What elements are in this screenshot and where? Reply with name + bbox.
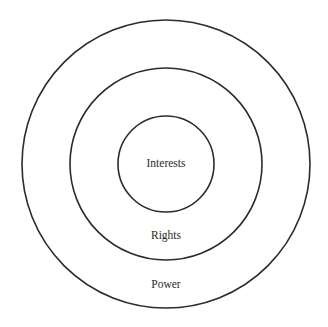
concentric-diagram: Interests Rights Power [0, 0, 328, 327]
interests-label: Interests [147, 157, 186, 169]
power-label: Power [151, 278, 181, 290]
rights-label: Rights [151, 229, 182, 242]
